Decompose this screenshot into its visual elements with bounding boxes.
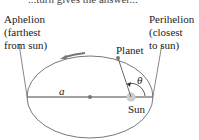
perihelion-label-2: (closest — [149, 26, 183, 38]
perihelion-label-3: to sun) — [149, 39, 179, 51]
center-dot — [88, 95, 92, 99]
aphelion-leader — [19, 44, 27, 96]
aphelion-label-3: from sun) — [4, 39, 47, 51]
radius-line — [118, 58, 131, 97]
perihelion-leader — [153, 44, 162, 96]
aphelion-label-1: Aphelion — [4, 13, 45, 25]
semi-major-axis-label: a — [59, 85, 65, 97]
aphelion-label-2: (farthest — [4, 26, 41, 38]
angle-theta-label: θ — [137, 74, 142, 86]
arrowhead-icon — [60, 55, 67, 59]
perihelion-label-1: Perihelion — [149, 13, 194, 25]
planet-label: Planet — [116, 44, 144, 56]
sun-label: Sun — [128, 103, 145, 115]
planet-dot — [116, 56, 120, 60]
